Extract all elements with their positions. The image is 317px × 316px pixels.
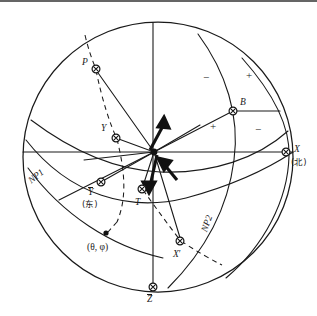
stereographic-projection-figure: P B Y X (北) Y (东) T X′ Z NP1 NP2 (θ, φ) … [0, 0, 317, 316]
tension-arrow-lower-right [158, 158, 177, 180]
point-markers [92, 65, 290, 291]
radius-center-y [116, 138, 154, 152]
center-point [151, 149, 158, 156]
dashed-curve-p-through-y [96, 70, 117, 139]
conjugate-plane-arc [226, 58, 289, 278]
nodal-plane-2-arc [168, 34, 235, 288]
dashed-curve-xprime-to-rim [181, 241, 222, 265]
dashed-segment-thetaphi [108, 222, 117, 232]
great-circle-y-xprime [84, 152, 154, 160]
dashed-curve-t-to-xprime [143, 190, 180, 240]
projection-canvas [0, 0, 317, 316]
theta-phi-point [103, 230, 108, 235]
radius-p-center [96, 70, 154, 152]
